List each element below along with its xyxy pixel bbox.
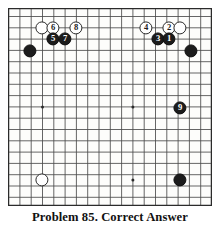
stone-label: 9 xyxy=(178,104,182,113)
stone-label: 1 xyxy=(167,35,171,44)
stone-label: 6 xyxy=(51,24,55,33)
stone-label: 3 xyxy=(156,35,160,44)
stone-label: 5 xyxy=(51,35,55,44)
stone-label: 8 xyxy=(74,24,78,33)
stone-label: 4 xyxy=(144,24,148,33)
figure-caption: Problem 85. Correct Answer xyxy=(0,206,220,228)
stone-label: 7 xyxy=(63,35,67,44)
go-board[interactable]: 6 8 5 7 4 2 3 1 xyxy=(8,8,212,206)
go-problem-figure: 6 8 5 7 4 2 3 1 xyxy=(0,0,220,228)
stone-label: 2 xyxy=(167,24,171,33)
